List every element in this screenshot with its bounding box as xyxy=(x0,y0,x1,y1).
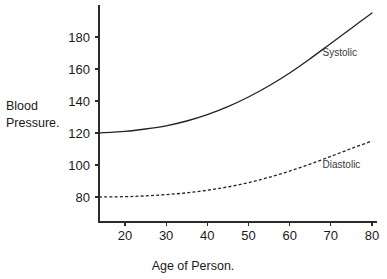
x-axis-title: Age of Person. xyxy=(152,259,235,273)
diastolic-series-label: Diastolic xyxy=(323,159,361,170)
y-tick-label: 140 xyxy=(68,94,90,109)
axis-lines xyxy=(99,5,377,222)
y-tick-label: 160 xyxy=(68,62,90,77)
y-tick-label: 180 xyxy=(68,30,90,45)
systolic-curve xyxy=(99,13,372,133)
blood-pressure-vs-age-chart: 80100120140160180 20304050607080 Systoli… xyxy=(0,0,387,279)
x-tick-label: 60 xyxy=(282,228,296,243)
x-tick-label: 30 xyxy=(159,228,173,243)
x-tick-label: 50 xyxy=(241,228,255,243)
axis-titles: Age of Person. Blood Pressure. xyxy=(6,99,234,273)
x-tick-label: 20 xyxy=(118,228,132,243)
y-tick-label: 100 xyxy=(68,158,90,173)
y-axis-title-line2: Pressure. xyxy=(6,116,60,130)
x-tick-label: 40 xyxy=(200,228,214,243)
series-labels: Systolic Diastolic xyxy=(323,47,361,170)
y-axis-title-line1: Blood xyxy=(6,99,38,113)
systolic-series-label: Systolic xyxy=(323,47,357,58)
x-tick-label: 80 xyxy=(365,228,379,243)
y-tick-label: 80 xyxy=(76,190,90,205)
x-axis-ticks: 20304050607080 xyxy=(118,222,380,243)
plot-axes xyxy=(99,5,377,222)
x-tick-label: 70 xyxy=(324,228,338,243)
y-tick-label: 120 xyxy=(68,126,90,141)
y-axis-ticks: 80100120140160180 xyxy=(68,30,99,205)
